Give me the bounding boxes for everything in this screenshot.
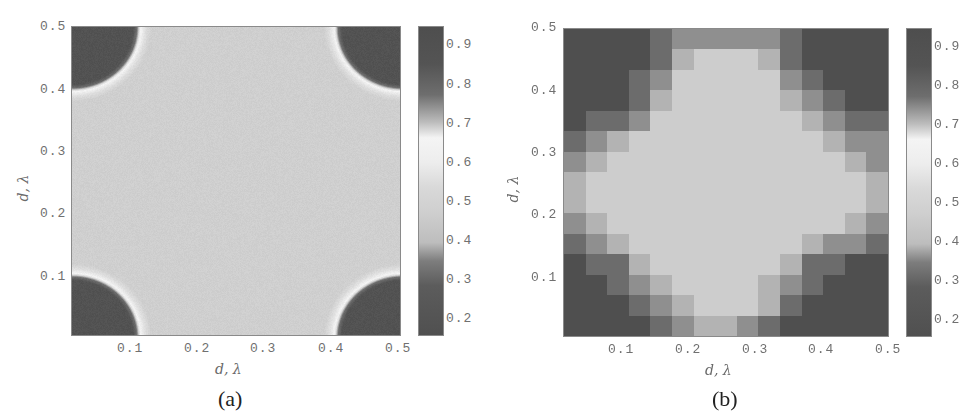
heatmap-cell bbox=[694, 111, 716, 131]
heatmap-cell bbox=[780, 90, 802, 110]
heatmap-cell bbox=[629, 90, 651, 110]
heatmap-cell bbox=[715, 49, 737, 69]
heatmap-cell bbox=[866, 49, 888, 69]
heatmap-cell bbox=[866, 295, 888, 315]
heatmap-cell bbox=[823, 111, 845, 131]
heatmap-cell bbox=[866, 70, 888, 90]
heatmap-cell bbox=[672, 70, 694, 90]
heatmap-cell bbox=[737, 316, 759, 336]
heatmap-cell bbox=[650, 90, 672, 110]
heatmap-cell bbox=[672, 90, 694, 110]
heatmap-cell bbox=[866, 152, 888, 172]
heatmap-cell bbox=[802, 70, 824, 90]
heatmap-cell bbox=[780, 193, 802, 213]
heatmap-cell bbox=[650, 275, 672, 295]
heatmap-cell bbox=[758, 70, 780, 90]
heatmap-cell bbox=[715, 193, 737, 213]
heatmap-cell bbox=[650, 234, 672, 254]
xlabel-b: d, λ bbox=[705, 362, 732, 378]
panel-b: 0.5 0.4 0.3 0.2 0.1 0.1 0.2 0.3 0.4 0.5 … bbox=[0, 0, 974, 420]
heatmap-cell bbox=[845, 316, 867, 336]
heatmap-cell bbox=[694, 234, 716, 254]
heatmap-cell bbox=[629, 316, 651, 336]
heatmap-cell bbox=[823, 70, 845, 90]
xtick-b-0.4: 0.4 bbox=[808, 342, 834, 357]
heatmap-cell bbox=[694, 152, 716, 172]
heatmap-cell bbox=[607, 234, 629, 254]
heatmap-cell bbox=[715, 172, 737, 192]
heatmap-cell bbox=[564, 90, 586, 110]
heatmap-cell bbox=[564, 111, 586, 131]
heatmap-cell bbox=[629, 254, 651, 274]
heatmap-cell bbox=[694, 49, 716, 69]
heatmap-cell bbox=[650, 49, 672, 69]
heatmap-cell bbox=[823, 193, 845, 213]
heatmap-cell bbox=[737, 254, 759, 274]
heatmap-cell bbox=[715, 213, 737, 233]
heatmap-cell bbox=[672, 254, 694, 274]
heatmap-cell bbox=[866, 90, 888, 110]
heatmap-cell bbox=[737, 234, 759, 254]
cbar-b-0.7: 0.7 bbox=[934, 117, 960, 132]
heatmap-cell bbox=[802, 275, 824, 295]
heatmap-cell bbox=[866, 193, 888, 213]
heatmap-cell bbox=[586, 213, 608, 233]
heatmap-cell bbox=[607, 111, 629, 131]
heatmap-cell bbox=[694, 213, 716, 233]
heatmap-cell bbox=[866, 234, 888, 254]
heatmap-cell bbox=[564, 49, 586, 69]
heatmap-cell bbox=[845, 90, 867, 110]
heatmap-cell bbox=[607, 172, 629, 192]
heatmap-cell bbox=[586, 29, 608, 49]
heatmap-cell bbox=[737, 90, 759, 110]
heatmap-cell bbox=[845, 172, 867, 192]
heatmap-cell bbox=[737, 172, 759, 192]
heatmap-cell bbox=[845, 213, 867, 233]
heatmap-cell bbox=[650, 316, 672, 336]
heatmap-cell bbox=[758, 193, 780, 213]
heatmap-cell bbox=[715, 275, 737, 295]
ytick-b-0.1: 0.1 bbox=[531, 270, 557, 285]
heatmap-cell bbox=[586, 275, 608, 295]
heatmap-cell bbox=[650, 29, 672, 49]
heatmap-cell bbox=[564, 131, 586, 151]
heatmap-cell bbox=[672, 29, 694, 49]
heatmap-cell bbox=[802, 111, 824, 131]
heatmap-cell bbox=[845, 193, 867, 213]
heatmap-cell bbox=[715, 70, 737, 90]
heatmap-cell bbox=[715, 90, 737, 110]
heatmap-cell bbox=[780, 152, 802, 172]
heatmap-cell bbox=[802, 254, 824, 274]
heatmap-cell bbox=[802, 152, 824, 172]
heatmap-cell bbox=[845, 295, 867, 315]
heatmap-cell bbox=[672, 49, 694, 69]
heatmap-cell bbox=[715, 152, 737, 172]
heatmap-cell bbox=[629, 131, 651, 151]
heatmap-cell bbox=[564, 275, 586, 295]
ytick-b-0.4: 0.4 bbox=[531, 83, 557, 98]
heatmap-cell bbox=[823, 254, 845, 274]
heatmap-cell bbox=[780, 275, 802, 295]
heatmap-cell bbox=[672, 172, 694, 192]
heatmap-cell bbox=[780, 49, 802, 69]
heatmap-cell bbox=[845, 29, 867, 49]
heatmap-cell bbox=[780, 316, 802, 336]
heatmap-cell bbox=[866, 29, 888, 49]
heatmap-cell bbox=[845, 111, 867, 131]
heatmap-cell bbox=[866, 111, 888, 131]
heatmap-cell bbox=[607, 49, 629, 69]
heatmap-cell bbox=[694, 29, 716, 49]
heatmap-cell bbox=[823, 316, 845, 336]
heatmap-cell bbox=[866, 254, 888, 274]
heatmap-cell bbox=[650, 254, 672, 274]
heatmap-cell bbox=[629, 70, 651, 90]
heatmap-cell bbox=[845, 131, 867, 151]
heatmap-cell bbox=[780, 172, 802, 192]
heatmap-cell bbox=[564, 172, 586, 192]
heatmap-cell bbox=[823, 90, 845, 110]
cbar-b-0.8: 0.8 bbox=[934, 78, 960, 93]
xtick-b-0.1: 0.1 bbox=[608, 342, 634, 357]
heatmap-cell bbox=[629, 275, 651, 295]
heatmap-cell bbox=[586, 234, 608, 254]
heatmap-cell bbox=[672, 213, 694, 233]
